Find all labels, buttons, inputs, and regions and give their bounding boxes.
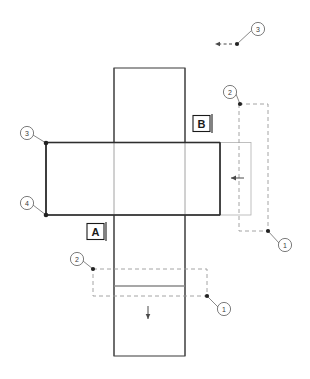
balloon-left-4-dot (44, 213, 49, 218)
balloon-left-3[interactable]: 3 (20, 126, 48, 145)
balloon-bottom-1-leader (207, 296, 218, 307)
balloon-left-3-label: 3 (25, 130, 29, 137)
balloon-top-3-dot (235, 42, 239, 46)
balloon-top-3[interactable]: 3 (235, 22, 265, 46)
balloon-top-3-label: 3 (256, 26, 260, 33)
balloon-right-1-label: 1 (283, 242, 287, 249)
balloon-bottom-1-dot (205, 294, 209, 298)
balloon-bottom-1[interactable]: 1 (205, 294, 231, 316)
balloon-right-1-dot (266, 229, 270, 233)
balloon-right-2-dot (238, 102, 242, 106)
balloon-right-1[interactable]: 1 (266, 229, 292, 252)
balloon-left-4-label: 4 (25, 200, 29, 207)
datum-b-symbol[interactable]: B (193, 114, 212, 133)
datum-a-label: A (92, 226, 100, 238)
balloon-right-2[interactable]: 2 (223, 85, 242, 106)
datum-a-symbol[interactable]: A (87, 222, 106, 241)
balloon-bottom-2-label: 2 (75, 256, 79, 263)
balloon-bottom-1-label: 1 (222, 306, 226, 313)
balloon-left-3-dot (44, 141, 49, 146)
balloon-bottom-2-dot (91, 267, 95, 271)
datum-b-label: B (198, 118, 206, 130)
drawing-svg: 3 2 1 3 (0, 0, 310, 379)
balloon-left-4-leader (33, 205, 46, 215)
balloon-right-2-label: 2 (228, 89, 232, 96)
balloon-top-3-leader (237, 31, 251, 44)
arrow-left-bend-icon (231, 176, 244, 181)
balloon-left-4[interactable]: 4 (20, 196, 48, 217)
arrow-top-dashed-icon (215, 42, 232, 46)
right-bend-zone-dashed (239, 104, 268, 231)
balloon-bottom-2[interactable]: 2 (70, 252, 95, 271)
balloon-right-1-leader (268, 231, 279, 243)
horizontal-flange-rect (46, 143, 220, 216)
technical-drawing-canvas: 3 2 1 3 (0, 0, 310, 379)
